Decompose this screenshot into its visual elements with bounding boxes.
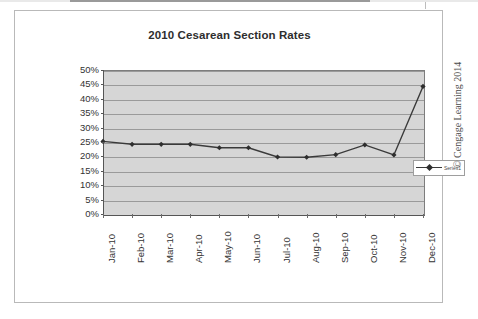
y-axis-tick-label: 30%: [55, 123, 99, 133]
y-axis-tick-label: 45%: [55, 79, 99, 89]
y-axis-tick-label: 40%: [55, 94, 99, 104]
x-axis-tick-label: Oct-10: [369, 234, 379, 263]
x-axis-tick-mark: [103, 214, 104, 218]
x-axis-tick-label: Dec-10: [427, 232, 437, 263]
figure-frame: 2010 Cesarean Section Rates 50%45%40%35%…: [14, 10, 443, 303]
legend-line-marker-icon: [416, 163, 442, 173]
x-axis-tick-mark: [190, 214, 191, 218]
x-axis-tick-mark: [336, 214, 337, 218]
y-axis-tick-label: 20%: [55, 151, 99, 161]
chart-plot-wrapper: 50%45%40%35%30%25%20%15%10%5%0% Jan-10Fe…: [15, 11, 444, 304]
y-axis-tick-mark: [101, 142, 104, 143]
x-axis-tick-mark: [365, 214, 366, 218]
x-axis-tick-mark: [278, 214, 279, 218]
x-axis-tick-label: Jan-10: [107, 234, 117, 263]
x-axis-tick-mark: [132, 214, 133, 218]
x-axis-tick-label: Apr-10: [194, 234, 204, 263]
y-axis-tick-mark: [101, 70, 104, 71]
x-axis-tick-label: Mar-10: [165, 233, 175, 263]
y-axis-tick-mark: [101, 113, 104, 114]
y-axis-tick-label: 50%: [55, 65, 99, 75]
y-axis-tick-labels: 50%45%40%35%30%25%20%15%10%5%0%: [55, 63, 99, 221]
y-axis-tick-mark: [101, 171, 104, 172]
x-axis-tick-label: May-10: [223, 231, 233, 263]
y-axis-tick-mark: [101, 84, 104, 85]
x-axis-tick-labels: Jan-10Feb-10Mar-10Apr-10May-10Jun-10Jul-…: [15, 217, 444, 297]
scan-artifact-tick: [425, 2, 426, 9]
x-axis-tick-mark: [394, 214, 395, 218]
x-axis-tick-mark: [248, 214, 249, 218]
x-axis-tick-label: Nov-10: [398, 232, 408, 263]
y-axis-tick-label: 15%: [55, 166, 99, 176]
y-axis-tick-label: 10%: [55, 180, 99, 190]
x-axis-tick-label: Jun-10: [252, 234, 262, 263]
scan-artifact-bar: [70, 0, 370, 2]
y-axis-tick-label: 5%: [55, 195, 99, 205]
x-axis-tick-label: Sep-10: [340, 232, 350, 263]
x-axis-tick-mark: [161, 214, 162, 218]
y-axis-tick-mark: [101, 128, 104, 129]
y-axis-tick-mark: [101, 185, 104, 186]
x-axis-tick-mark: [307, 214, 308, 218]
y-axis-tick-label: 25%: [55, 137, 99, 147]
series-line-series1: [103, 70, 424, 215]
y-axis-tick-label: 35%: [55, 108, 99, 118]
x-axis-tick-mark: [219, 214, 220, 218]
x-axis-tick-label: Feb-10: [136, 233, 146, 263]
x-axis-tick-label: Jul-10: [282, 237, 292, 263]
y-axis-tick-mark: [101, 200, 104, 201]
x-axis-tick-mark: [423, 214, 424, 218]
y-axis-tick-mark: [101, 156, 104, 157]
copyright-notice: © Cengage Learning 2014: [452, 62, 463, 168]
x-axis-tick-label: Aug-10: [311, 232, 321, 263]
y-axis-tick-mark: [101, 99, 104, 100]
